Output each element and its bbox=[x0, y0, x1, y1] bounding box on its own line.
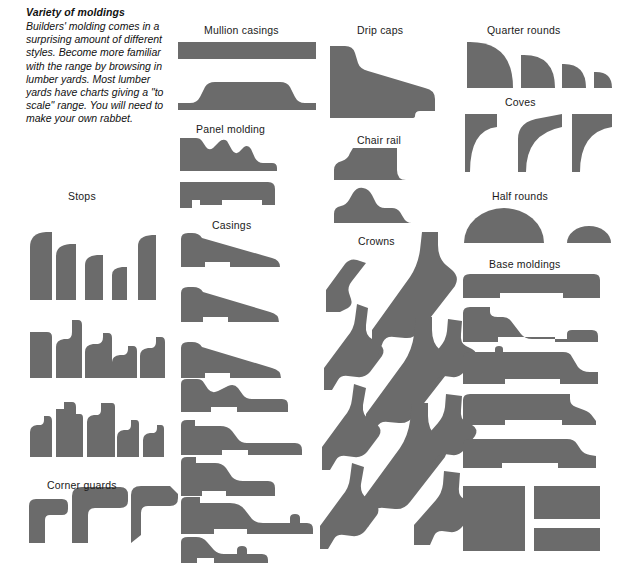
group-coves bbox=[465, 114, 612, 172]
base-molding-2 bbox=[463, 307, 598, 342]
stop-2-2 bbox=[56, 320, 82, 378]
base-molding-5 bbox=[463, 439, 596, 468]
base-molding-3 bbox=[463, 346, 598, 384]
stop-1-4 bbox=[112, 267, 127, 300]
half-round-2 bbox=[567, 226, 611, 243]
caption-quarter-rounds: Quarter rounds bbox=[487, 24, 560, 36]
casing-3 bbox=[181, 342, 281, 378]
mullion-casing-2 bbox=[178, 82, 316, 110]
group-quarter-rounds bbox=[467, 42, 612, 88]
stop-3-1 bbox=[30, 416, 52, 457]
caption-mullion-casings: Mullion casings bbox=[204, 24, 279, 36]
group-chair-rail bbox=[334, 148, 412, 223]
casing-6 bbox=[181, 457, 275, 496]
base-stock-small bbox=[534, 528, 600, 551]
stop-1-5 bbox=[138, 235, 156, 300]
base-stock-medium bbox=[534, 486, 600, 519]
corner-guard-2 bbox=[72, 487, 128, 543]
mullion-casing-1 bbox=[178, 42, 316, 59]
page-title: Variety of moldings bbox=[26, 6, 176, 19]
stop-2-4 bbox=[112, 346, 137, 378]
casing-5 bbox=[181, 420, 302, 455]
casing-7 bbox=[181, 497, 313, 534]
quarter-round-1 bbox=[467, 42, 513, 88]
stop-3-4 bbox=[117, 420, 139, 457]
group-crowns bbox=[320, 232, 476, 549]
cove-3 bbox=[572, 114, 612, 172]
base-molding-1 bbox=[463, 274, 600, 298]
stop-3-3 bbox=[87, 403, 115, 457]
stop-3-5 bbox=[143, 425, 164, 457]
intro-body-text: Builders' molding comes in a surprising … bbox=[26, 20, 176, 126]
intro-text-block: Variety of moldings Builders' molding co… bbox=[26, 6, 176, 126]
caption-chair-rail: Chair rail bbox=[357, 134, 401, 146]
group-panel-molding bbox=[180, 138, 277, 208]
group-stops-row-1 bbox=[30, 232, 156, 300]
caption-coves: Coves bbox=[505, 96, 536, 108]
caption-crowns: Crowns bbox=[358, 235, 395, 247]
group-stops-row-2 bbox=[30, 320, 165, 378]
group-half-rounds bbox=[464, 208, 611, 243]
casing-8 bbox=[181, 537, 268, 563]
group-corner-guards bbox=[29, 486, 178, 543]
stop-1-3 bbox=[85, 255, 103, 300]
casing-2 bbox=[181, 287, 279, 322]
stop-2-5 bbox=[140, 337, 165, 378]
corner-guard-3 bbox=[131, 486, 178, 543]
group-drip-caps bbox=[330, 46, 435, 118]
caption-panel-molding: Panel molding bbox=[196, 123, 265, 135]
cove-1 bbox=[465, 114, 497, 172]
stop-1-2 bbox=[56, 244, 76, 300]
caption-casings: Casings bbox=[212, 219, 251, 231]
caption-half-rounds: Half rounds bbox=[492, 190, 548, 202]
corner-guard-1 bbox=[29, 499, 68, 543]
drip-cap-1 bbox=[330, 46, 435, 118]
caption-corner-guards: Corner guards bbox=[47, 479, 117, 491]
stop-1-1 bbox=[30, 232, 52, 300]
casing-4 bbox=[181, 379, 288, 412]
group-base-moldings bbox=[463, 274, 600, 551]
moldings-chart-page: Variety of moldings Builders' molding co… bbox=[0, 0, 619, 569]
group-stops-row-3 bbox=[30, 402, 164, 457]
panel-molding-2 bbox=[180, 182, 275, 208]
chair-rail-2 bbox=[334, 188, 412, 223]
stop-3-2 bbox=[56, 402, 83, 457]
cove-2 bbox=[518, 114, 562, 172]
quarter-round-2 bbox=[521, 55, 555, 88]
stop-2-3 bbox=[85, 333, 112, 378]
quarter-round-3 bbox=[562, 64, 586, 88]
chair-rail-1 bbox=[334, 148, 406, 180]
casing-1 bbox=[181, 233, 280, 267]
base-molding-4 bbox=[463, 394, 596, 425]
caption-base-moldings: Base moldings bbox=[489, 258, 560, 270]
half-round-1 bbox=[464, 208, 544, 243]
panel-molding-1 bbox=[180, 138, 277, 171]
stop-2-1 bbox=[30, 332, 52, 378]
base-stock-large bbox=[463, 486, 525, 551]
caption-stops: Stops bbox=[68, 190, 96, 202]
group-mullion-casings bbox=[178, 42, 316, 110]
group-casings bbox=[181, 233, 313, 563]
crown-1 bbox=[326, 260, 366, 313]
quarter-round-4 bbox=[594, 72, 612, 88]
caption-drip-caps: Drip caps bbox=[357, 24, 403, 36]
